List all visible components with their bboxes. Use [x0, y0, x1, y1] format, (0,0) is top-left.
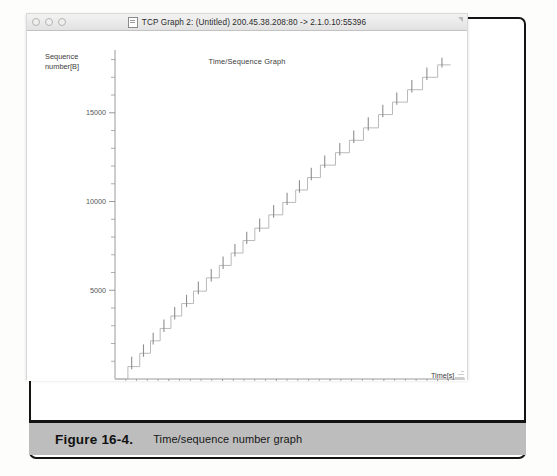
window-controls[interactable] — [32, 18, 66, 26]
titlebar-corner-marker — [456, 17, 463, 24]
window-title: TCP Graph 2: (Untitled) 200.45.38.208:80… — [142, 18, 366, 27]
tick-labels-layer: 500010000150000.51.01.52.02.53.0 — [86, 108, 443, 381]
figure-caption-text: Time/sequence number graph — [153, 433, 302, 445]
time-sequence-graph: 500010000150000.51.01.52.02.53.0 — [27, 31, 469, 381]
window-resize-grip[interactable] — [455, 369, 464, 378]
figure-caption-band: Figure 16-4. Time/sequence number graph — [29, 420, 526, 455]
window-titlebar[interactable]: TCP Graph 2: (Untitled) 200.45.38.208:80… — [27, 14, 467, 31]
document-icon — [128, 17, 138, 28]
y-tick-label: 10000 — [86, 197, 106, 206]
y-tick-label: 5000 — [90, 286, 106, 295]
axes-layer — [109, 50, 465, 381]
sequence-number-staircase — [115, 65, 451, 379]
figure-number: Figure 16-4. — [55, 432, 133, 447]
y-tick-label: 15000 — [86, 108, 106, 117]
series-layer — [115, 58, 451, 379]
tcp-graph-window: TCP Graph 2: (Untitled) 200.45.38.208:80… — [26, 13, 468, 380]
zoom-button[interactable] — [58, 18, 66, 26]
minimize-button[interactable] — [45, 18, 53, 26]
ack-segment-bars — [132, 58, 442, 369]
plot-body: Sequence number[B] Time/Sequence Graph T… — [27, 31, 467, 381]
close-button[interactable] — [32, 18, 40, 26]
window-title-wrap: TCP Graph 2: (Untitled) 200.45.38.208:80… — [27, 14, 467, 31]
